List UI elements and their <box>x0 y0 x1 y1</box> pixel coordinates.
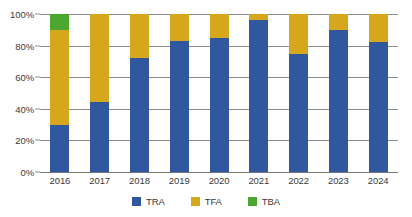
bar-stack <box>369 14 388 172</box>
x-axis-label-2019: 2019 <box>159 175 199 191</box>
y-tick-100 <box>35 14 40 15</box>
legend-item-TBA[interactable]: TBA <box>248 196 280 207</box>
y-tick-0 <box>35 172 40 173</box>
x-axis-label-2023: 2023 <box>318 175 358 191</box>
bar-segment-TRA-2024[interactable] <box>369 42 388 172</box>
bar-segment-TRA-2021[interactable] <box>249 20 268 172</box>
bar-stack <box>170 14 189 172</box>
x-axis-label-2020: 2020 <box>199 175 239 191</box>
bar-segment-TFA-2018[interactable] <box>130 14 149 58</box>
legend-swatch-TRA <box>132 197 141 206</box>
y-tick-40 <box>35 108 40 109</box>
bar-stack <box>249 14 268 172</box>
x-axis: 201620172018201920202021202220232024 <box>40 175 398 191</box>
bar-group-2022[interactable] <box>279 14 319 172</box>
chart-legend: TRATFATBA <box>0 196 412 207</box>
bar-segment-TRA-2016[interactable] <box>50 125 69 172</box>
bar-group-2023[interactable] <box>318 14 358 172</box>
bar-group-2019[interactable] <box>159 14 199 172</box>
bar-group-2020[interactable] <box>199 14 239 172</box>
bar-segment-TFA-2024[interactable] <box>369 14 388 42</box>
bar-stack <box>329 14 348 172</box>
y-tick-60 <box>35 77 40 78</box>
y-axis-label-0: 0% <box>20 167 34 178</box>
bar-segment-TFA-2017[interactable] <box>90 14 109 102</box>
y-axis-label-80: 80% <box>15 40 34 51</box>
bar-group-2021[interactable] <box>239 14 279 172</box>
bar-stack <box>50 14 69 172</box>
bar-segment-TFA-2020[interactable] <box>210 14 229 38</box>
y-axis-label-60: 60% <box>15 72 34 83</box>
bar-group-2024[interactable] <box>358 14 398 172</box>
bar-segment-TFA-2022[interactable] <box>289 14 308 54</box>
x-axis-label-2021: 2021 <box>239 175 279 191</box>
bar-stack <box>210 14 229 172</box>
bar-stack <box>289 14 308 172</box>
y-axis: 100% 80% 60% 40% 20% 0% <box>0 14 34 172</box>
bar-segment-TRA-2020[interactable] <box>210 38 229 172</box>
bar-series-container <box>40 14 398 172</box>
y-tick-20 <box>35 140 40 141</box>
x-axis-label-2018: 2018 <box>120 175 160 191</box>
legend-label-TBA: TBA <box>262 196 280 207</box>
legend-item-TRA[interactable]: TRA <box>132 196 165 207</box>
legend-item-TFA[interactable]: TFA <box>191 196 222 207</box>
bar-segment-TRA-2019[interactable] <box>170 41 189 172</box>
bar-segment-TRA-2022[interactable] <box>289 54 308 173</box>
bar-segment-TRA-2017[interactable] <box>90 102 109 172</box>
x-axis-label-2017: 2017 <box>80 175 120 191</box>
x-axis-label-2022: 2022 <box>279 175 319 191</box>
stacked-bar-chart: 100% 80% 60% 40% 20% 0% 2016201720182019… <box>0 0 412 217</box>
x-axis-label-2016: 2016 <box>40 175 80 191</box>
bar-stack <box>130 14 149 172</box>
x-axis-label-2024: 2024 <box>358 175 398 191</box>
y-axis-label-100: 100% <box>10 9 34 20</box>
bar-segment-TBA-2016[interactable] <box>50 14 69 30</box>
bar-segment-TFA-2016[interactable] <box>50 30 69 125</box>
legend-swatch-TFA <box>191 197 200 206</box>
bar-segment-TFA-2023[interactable] <box>329 14 348 30</box>
legend-swatch-TBA <box>248 197 257 206</box>
bar-segment-TFA-2019[interactable] <box>170 14 189 41</box>
bar-group-2018[interactable] <box>120 14 160 172</box>
legend-label-TRA: TRA <box>146 196 165 207</box>
bar-group-2016[interactable] <box>40 14 80 172</box>
y-tick-80 <box>35 45 40 46</box>
y-axis-label-40: 40% <box>15 103 34 114</box>
legend-label-TFA: TFA <box>205 196 222 207</box>
bar-segment-TRA-2023[interactable] <box>329 30 348 172</box>
y-axis-label-20: 20% <box>15 135 34 146</box>
plot-area <box>40 14 398 172</box>
gridline-0 <box>40 172 398 173</box>
bar-group-2017[interactable] <box>80 14 120 172</box>
bar-stack <box>90 14 109 172</box>
bar-segment-TRA-2018[interactable] <box>130 58 149 172</box>
